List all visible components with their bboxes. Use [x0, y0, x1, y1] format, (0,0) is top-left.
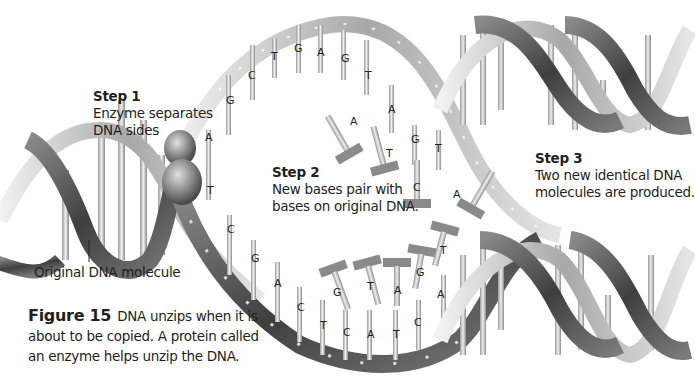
- svg-text:A: A: [437, 288, 445, 301]
- svg-text:A: A: [367, 328, 375, 341]
- svg-text:A: A: [350, 115, 358, 128]
- figure-number: Figure 15: [28, 306, 111, 325]
- enzyme-protein: [162, 130, 202, 205]
- svg-text:A: A: [317, 46, 325, 59]
- svg-text:T: T: [206, 184, 214, 197]
- original-dna-callout: Original DNA molecule: [34, 264, 180, 281]
- step-1-text-line-2: DNA sides: [93, 122, 213, 139]
- step-3-title: Step 3: [535, 150, 695, 167]
- new-dna-helix-bottom: [440, 240, 690, 355]
- svg-text:G: G: [341, 52, 350, 65]
- svg-text:A: A: [394, 284, 402, 297]
- svg-text:G: G: [226, 94, 235, 107]
- caption-line-1: DNA unzips when it is: [117, 308, 257, 324]
- svg-text:T: T: [392, 328, 400, 341]
- caption-line-3: an enzyme helps unzip the DNA.: [28, 348, 239, 364]
- svg-text:C: C: [414, 316, 422, 329]
- svg-text:G: G: [333, 286, 342, 299]
- svg-text:G: G: [251, 252, 260, 265]
- svg-text:G: G: [416, 266, 425, 279]
- svg-text:T: T: [439, 244, 447, 257]
- svg-text:A: A: [388, 103, 396, 116]
- step-3-label: Step 3 Two new identical DNA molecules a…: [535, 150, 695, 201]
- svg-text:T: T: [270, 50, 278, 63]
- svg-text:T: T: [364, 69, 372, 82]
- step-1-text-line-1: Enzyme separates: [93, 105, 213, 122]
- step-1-title: Step 1: [93, 88, 213, 105]
- figure-caption: Figure 15DNA unzips when it is about to …: [28, 306, 298, 366]
- svg-text:C: C: [227, 223, 235, 236]
- svg-text:T: T: [434, 142, 442, 155]
- caption-line-2: about to be copied. A protein called: [28, 328, 259, 344]
- svg-text:T: T: [385, 147, 393, 160]
- svg-text:A: A: [274, 277, 282, 290]
- svg-text:C: C: [297, 301, 305, 314]
- step-3-text-line-1: Two new identical DNA: [535, 167, 695, 184]
- step-2-text-line-1: New bases pair with: [272, 181, 419, 198]
- svg-text:G: G: [294, 42, 303, 55]
- svg-text:A: A: [453, 188, 461, 201]
- step-3-text-line-2: molecules are produced.: [535, 184, 695, 201]
- svg-text:C: C: [248, 69, 256, 82]
- new-dna-helix-top: [440, 25, 690, 130]
- step-1-label: Step 1 Enzyme separates DNA sides: [93, 88, 213, 139]
- step-2-title: Step 2: [272, 164, 419, 181]
- svg-text:G: G: [411, 133, 420, 146]
- svg-text:T: T: [366, 280, 374, 293]
- step-2-text-line-2: bases on original DNA.: [272, 198, 419, 215]
- step-2-label: Step 2 New bases pair with bases on orig…: [272, 164, 419, 215]
- svg-text:C: C: [343, 326, 351, 339]
- svg-text:T: T: [319, 319, 327, 332]
